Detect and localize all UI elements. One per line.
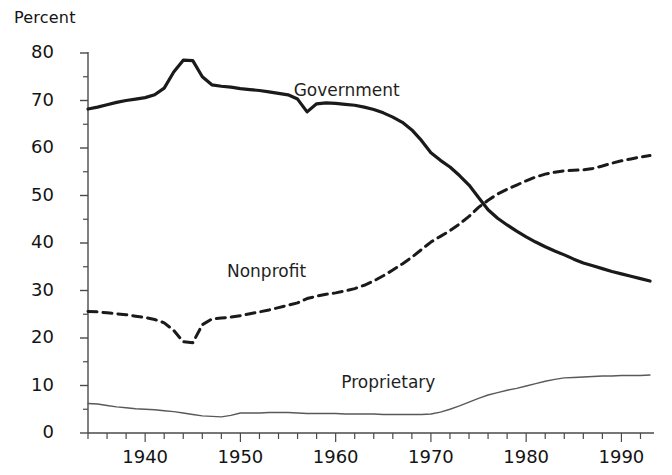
x-tick-label: 1960 <box>304 446 368 467</box>
y-tick-label: 50 <box>8 184 54 205</box>
y-tick-label: 10 <box>8 374 54 395</box>
y-tick-label: 60 <box>8 136 54 157</box>
y-tick-label: 0 <box>8 421 54 442</box>
series-line-nonprofit <box>88 156 650 343</box>
y-tick-label: 40 <box>8 231 54 252</box>
series-label-proprietary: Proprietary <box>341 372 435 392</box>
x-tick-label: 1940 <box>113 446 177 467</box>
y-tick-label: 30 <box>8 279 54 300</box>
x-tick-label: 1970 <box>399 446 463 467</box>
y-tick-label: 20 <box>8 326 54 347</box>
series-label-government: Government <box>294 80 400 100</box>
x-tick-label: 1980 <box>494 446 558 467</box>
y-tick-label: 80 <box>8 41 54 62</box>
x-tick-label: 1950 <box>208 446 272 467</box>
x-tick-label: 1990 <box>589 446 653 467</box>
series-label-nonprofit: Nonprofit <box>227 261 306 281</box>
y-tick-label: 70 <box>8 89 54 110</box>
chart-container: Percent 01020304050607080194019501960197… <box>0 0 672 475</box>
line-chart-plot <box>0 0 672 475</box>
